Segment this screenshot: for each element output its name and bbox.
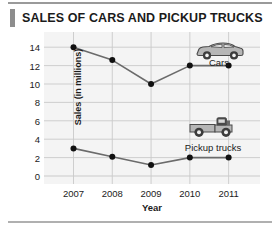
y-tick-label: 12 bbox=[29, 60, 40, 71]
chart-title: SALES OF CARS AND PICKUP TRUCKS bbox=[10, 8, 263, 28]
y-tick-label: 6 bbox=[35, 115, 40, 126]
y-tick-label: 0 bbox=[35, 171, 40, 182]
chart-figure: SALES OF CARS AND PICKUP TRUCKS Sales (i… bbox=[0, 0, 276, 230]
data-point bbox=[109, 154, 115, 160]
pickup-truck-icon bbox=[187, 115, 239, 142]
series-label-pickup-trucks: Pickup trucks bbox=[185, 142, 242, 153]
x-axis-label: Year bbox=[44, 202, 260, 213]
series-label-cars: Cars bbox=[209, 57, 229, 68]
x-tick-label: 2009 bbox=[140, 188, 161, 199]
data-point bbox=[148, 81, 154, 87]
data-point bbox=[187, 155, 193, 161]
data-point bbox=[148, 162, 154, 168]
chart-title-text: SALES OF CARS AND PICKUP TRUCKS bbox=[22, 11, 263, 25]
bottom-divider bbox=[8, 221, 272, 223]
x-tick-label: 2007 bbox=[63, 188, 84, 199]
x-tick-label: 2011 bbox=[218, 188, 238, 199]
x-tick-label: 2008 bbox=[102, 188, 123, 199]
data-point bbox=[71, 145, 77, 151]
y-axis-label: Sales (in millions) bbox=[73, 32, 83, 142]
y-tick-label: 4 bbox=[35, 134, 40, 145]
data-point bbox=[109, 57, 115, 63]
data-point bbox=[226, 155, 232, 161]
y-tick-label: 8 bbox=[35, 97, 40, 108]
top-divider bbox=[8, 2, 272, 4]
y-tick-label: 2 bbox=[35, 152, 40, 163]
plot-area: Sales (in millions) 02468101214 20072008… bbox=[44, 32, 260, 184]
title-accent-bar bbox=[10, 9, 15, 27]
y-tick-label: 14 bbox=[29, 42, 40, 53]
x-tick-label: 2010 bbox=[179, 188, 200, 199]
y-tick-label: 10 bbox=[29, 79, 40, 90]
